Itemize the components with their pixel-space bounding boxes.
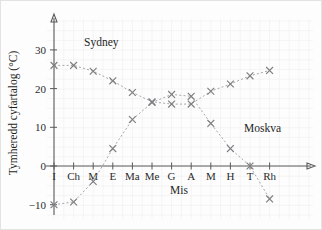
x-tick-label: I: [52, 170, 56, 182]
x-axis-title: Mis: [170, 184, 188, 196]
chart-figure: −100102030 IChMEMaMeGAMHTRh Tymheredd cy…: [0, 0, 322, 230]
x-tick-label: M: [206, 170, 216, 182]
temperature-line-chart: −100102030 IChMEMaMeGAMHTRh Tymheredd cy…: [1, 1, 322, 230]
x-axis-ticks: IChMEMaMeGAMHTRh: [52, 163, 276, 183]
x-tick-label: H: [226, 170, 234, 182]
y-axis-title: Tymheredd cyfartalog (°C): [7, 51, 20, 176]
x-tick-label: Ma: [125, 170, 140, 182]
y-tick-label: 0: [41, 160, 47, 172]
y-tick-label: 30: [35, 44, 47, 56]
x-tick-label: T: [247, 170, 254, 182]
x-tick-label: Ch: [67, 170, 80, 182]
y-tick-label: 20: [35, 83, 47, 95]
x-tick-label: G: [168, 170, 176, 182]
series-label-moskva: Moskva: [244, 122, 281, 134]
x-tick-label: A: [187, 170, 195, 182]
x-tick-label: Rh: [263, 170, 276, 182]
series-label-sydney: Sydney: [84, 36, 119, 49]
y-tick-label: −10: [29, 199, 47, 211]
y-tick-label: 10: [35, 121, 47, 133]
x-tick-label: Me: [145, 170, 160, 182]
x-tick-label: E: [109, 170, 116, 182]
